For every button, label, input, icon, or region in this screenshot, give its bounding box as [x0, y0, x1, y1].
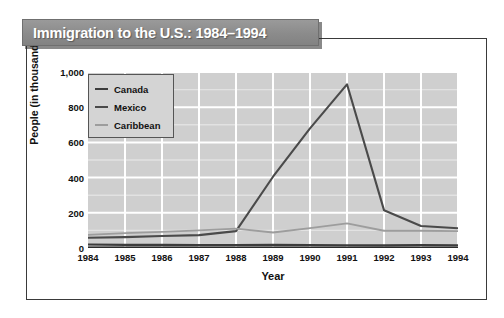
y-tick-label: 400 — [26, 172, 84, 183]
y-axis-ticks: 02004006008001,000 — [22, 72, 84, 248]
x-axis-label: Year — [88, 270, 458, 282]
legend-swatch-icon — [95, 124, 108, 126]
legend-swatch-icon — [95, 88, 108, 90]
chart-title-banner: Immigration to the U.S.: 1984–1994 — [22, 19, 319, 46]
y-tick-label: 200 — [26, 207, 84, 218]
y-tick-label: 800 — [26, 102, 84, 113]
y-tick-label: 600 — [26, 137, 84, 148]
x-tick-label: 1994 — [436, 252, 480, 263]
x-axis-ticks: 1984198519861987198819891990199119921993… — [88, 252, 458, 268]
page-title: Immigration to the U.S.: 1984–1994 — [23, 25, 266, 41]
legend-item-canada: Canada — [95, 80, 173, 98]
legend-label: Caribbean — [114, 120, 160, 131]
series-line-canada — [88, 244, 458, 245]
chart-legend: CanadaMexicoCaribbean — [88, 74, 174, 138]
legend-swatch-icon — [95, 106, 108, 108]
legend-item-caribbean: Caribbean — [95, 116, 173, 134]
legend-label: Mexico — [114, 102, 146, 113]
legend-label: Canada — [114, 84, 148, 95]
y-tick-label: 1,000 — [26, 67, 84, 78]
legend-item-mexico: Mexico — [95, 98, 173, 116]
